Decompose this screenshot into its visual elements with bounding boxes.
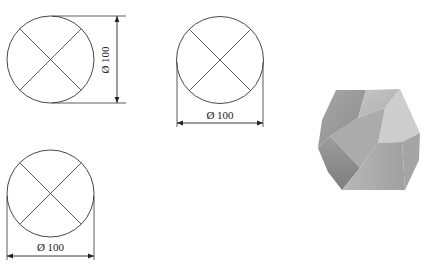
view-3-circle-with-horizontal-dimension: Ø 100 bbox=[7, 150, 94, 260]
technical-drawing: Ø 100 Ø 100 Ø 100 bbox=[0, 0, 430, 273]
view-1-circle-with-vertical-dimension: Ø 100 bbox=[7, 16, 126, 103]
dimension-label: Ø 100 bbox=[37, 241, 65, 253]
face bbox=[402, 133, 420, 190]
dimension-label: Ø 100 bbox=[99, 46, 111, 74]
dimension-label: Ø 100 bbox=[206, 109, 234, 121]
polyhedron-3d-render bbox=[318, 89, 420, 190]
view-2-circle-with-horizontal-dimension: Ø 100 bbox=[177, 17, 264, 128]
